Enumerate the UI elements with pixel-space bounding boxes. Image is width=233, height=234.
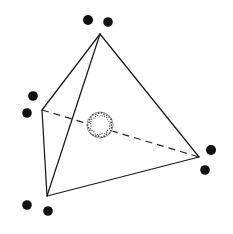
sphere-stipple-dot: [88, 121, 90, 123]
sphere-stipple-dot: [110, 118, 112, 120]
dot-left-lower: [22, 108, 32, 118]
sphere-stipple-dot: [95, 133, 96, 134]
figure-canvas: [0, 0, 233, 234]
sphere-stipple-dot: [91, 119, 92, 120]
sphere-stipple-dot: [95, 135, 97, 137]
sphere-stipple-dot: [106, 117, 107, 118]
sphere-stipple-dot: [110, 121, 112, 123]
sphere-stipple-dot: [106, 134, 108, 136]
sphere-stipple-dot: [90, 116, 92, 118]
sphere-stipple-dot: [88, 127, 90, 129]
sphere-stipple-dot: [110, 124, 112, 126]
dot-bottom-left: [22, 200, 32, 210]
sphere-stipple-dot: [95, 113, 97, 115]
edge-apex-right: [100, 34, 199, 157]
sphere-stipple-dot: [89, 119, 91, 121]
sphere-stipple-dot: [101, 136, 103, 138]
sphere-stipple-dot: [108, 116, 110, 118]
sphere-stipple-dot: [97, 134, 98, 135]
sphere-stipple-dot: [92, 134, 94, 136]
dot-top-left: [83, 15, 93, 25]
sphere-stipple-dot: [98, 135, 100, 137]
sphere-stipple-dot: [109, 126, 110, 127]
sphere-stipple-dot: [98, 112, 100, 114]
sphere-stipple-dot: [103, 135, 105, 137]
satellite-dot-layer: [22, 15, 216, 216]
sphere-stipple-dot: [99, 115, 100, 116]
sphere-stipple-dot: [87, 124, 89, 126]
sphere-stipple-dot: [97, 115, 98, 116]
sphere-stipple-dot: [90, 125, 91, 126]
dot-right-lower: [200, 165, 210, 175]
sphere-stipple-dot: [95, 116, 96, 117]
sphere-stipple-dot: [90, 128, 91, 129]
dot-right-upper: [206, 145, 216, 155]
sphere-stipple-dot: [106, 115, 108, 117]
sphere-stipple-dot: [90, 123, 91, 124]
sphere-stipple-dot: [99, 134, 100, 135]
edge-layer-hidden: [42, 110, 199, 157]
sphere-stipple-dot: [108, 121, 109, 122]
sphere-stipple-dot: [102, 115, 103, 116]
sphere-stipple-dot: [103, 114, 105, 116]
sphere-stipple-dot: [107, 130, 108, 131]
tetrahedron-diagram: [0, 0, 233, 234]
sphere-stipple-dot: [110, 130, 112, 132]
dot-bottom-right: [43, 206, 53, 216]
sphere-group: [87, 112, 113, 138]
sphere-stipple-dot: [109, 123, 110, 124]
sphere-stipple-dot: [101, 112, 103, 114]
sphere-stipple-dot: [92, 114, 94, 116]
sphere-stipple-dot: [93, 131, 94, 132]
sphere-stipple-dot: [109, 132, 111, 134]
sphere-stipple-dot: [109, 128, 110, 129]
sphere-stipple-dot: [102, 133, 103, 134]
sphere-stipple-dot: [90, 121, 91, 122]
sphere-stipple-dot: [92, 130, 93, 131]
sphere-stipple-dot: [90, 132, 92, 134]
edge-left-bottom: [42, 110, 47, 196]
sphere-stipple-dot: [104, 116, 105, 117]
sphere-stipple-dot: [107, 119, 108, 120]
sphere-stipple-dot: [104, 133, 105, 134]
edge-apex-left: [42, 34, 100, 110]
dot-left-upper: [28, 91, 38, 101]
edge-left-right: [42, 110, 199, 157]
dot-top-right: [103, 17, 113, 27]
edge-bottom-right: [47, 157, 199, 196]
sphere-stipple-dot: [93, 118, 94, 119]
sphere-stipple-dot: [106, 132, 107, 133]
edge-layer-solid: [42, 34, 199, 196]
sphere-stipple-dot: [89, 129, 91, 131]
sphere-stipple-dot: [111, 127, 113, 129]
